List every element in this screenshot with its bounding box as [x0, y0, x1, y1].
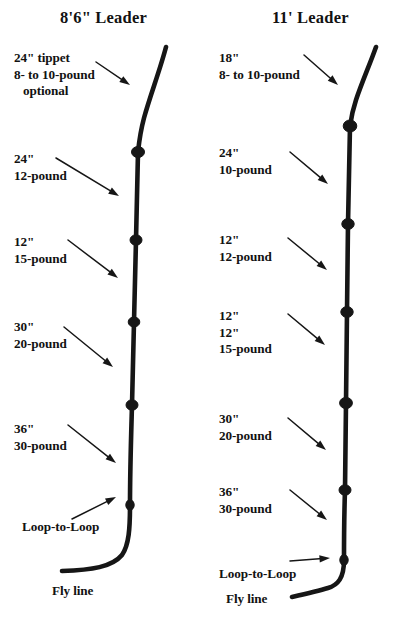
label-line: 24" [14, 151, 67, 168]
label-line: 12" [219, 308, 272, 325]
segment-12-15-label: 12"12"15-pound [219, 308, 272, 358]
label-line: 20-pound [14, 336, 67, 353]
pointer-arrow-shaft [288, 314, 319, 340]
blood-knot-icon [342, 219, 354, 230]
label-line: 12-pound [14, 168, 67, 185]
pointer-arrow-shaft [64, 327, 107, 362]
label-line: 18" [219, 50, 300, 67]
blood-knot-icon [128, 317, 140, 327]
label-line: 30" [14, 319, 67, 336]
label-line: 10-pound [219, 162, 272, 179]
leader-line [62, 47, 166, 571]
label-line: 15-pound [219, 341, 272, 358]
pointer-arrow-shaft [72, 500, 109, 519]
leader-line [292, 47, 376, 597]
blood-knot-icon [341, 307, 353, 318]
segment-24-12-label: 24"12-pound [14, 151, 67, 184]
label-line: optional [14, 83, 95, 100]
blood-knot-icon [130, 235, 142, 245]
label-line: 30-pound [14, 438, 67, 455]
segment-12-15-label: 12"15-pound [14, 234, 67, 267]
blood-knot-icon [132, 147, 145, 158]
pointer-arrow-head-icon [119, 76, 130, 85]
segment-36-30-label: 36"30-pound [219, 484, 272, 517]
loop-to-loop-knot-icon [340, 555, 348, 566]
fly-line-label: Fly line [52, 583, 93, 600]
label-line: 24" [219, 145, 272, 162]
segment-30-20-label: 30"20-pound [14, 319, 67, 352]
pointer-arrow-head-icon [108, 187, 119, 196]
loop-to-loop-knot-icon [126, 500, 134, 510]
label-line: 30-pound [219, 501, 272, 518]
pointer-arrow-shaft [288, 238, 321, 265]
pointer-arrow-shaft [96, 62, 124, 81]
label-line: 8- to 10-pound [14, 67, 95, 84]
page-title-left: 8'6" Leader [60, 8, 147, 28]
segment-30-20-label: 30"20-pound [219, 411, 272, 444]
segment-12-12-label: 12"12-pound [219, 232, 272, 265]
label-line: 12" [14, 234, 67, 251]
label-line: Loop-to-Loop [22, 519, 99, 536]
pointer-arrow-shaft [304, 55, 332, 80]
blood-knot-icon [340, 397, 353, 408]
label-line: 8- to 10-pound [219, 67, 300, 84]
label-line: 24" tippet [14, 50, 95, 67]
pointer-arrow-shaft [68, 240, 112, 273]
label-line: 12-pound [219, 249, 272, 266]
loop-to-loop-label: Loop-to-Loop [219, 566, 296, 583]
label-line: 15-pound [14, 251, 67, 268]
tippet-label: 18"8- to 10-pound [219, 50, 300, 83]
blood-knot-icon [343, 120, 357, 132]
blood-knot-icon [126, 400, 138, 410]
tippet-label: 24" tippet8- to 10-poundoptional [14, 50, 95, 100]
pointer-arrow-shaft [290, 152, 322, 179]
label-line: 36" [219, 484, 272, 501]
label-line: 12" [219, 325, 272, 342]
segment-24-10-label: 24"10-pound [219, 145, 272, 178]
label-line: Loop-to-Loop [219, 566, 296, 583]
pointer-arrow-head-icon [105, 497, 116, 505]
label-line: 36" [14, 421, 67, 438]
label-line: 12" [219, 232, 272, 249]
pointer-arrow-shaft [288, 418, 320, 445]
pointer-arrow-shaft [68, 425, 110, 458]
pointer-arrow-shaft [290, 490, 321, 515]
blood-knot-icon [339, 485, 351, 495]
leader-diagram-page: 8'6" Leader 11' Leader 24" tippet8- to 1… [0, 0, 407, 626]
pointer-arrow-shaft [290, 559, 323, 561]
label-line: Fly line [226, 591, 267, 608]
page-title-right: 11' Leader [272, 8, 349, 28]
pointer-arrow-head-icon [107, 269, 118, 278]
loop-to-loop-label: Loop-to-Loop [22, 519, 99, 536]
label-line: 20-pound [219, 428, 272, 445]
pointer-arrow-head-icon [319, 555, 330, 562]
label-line: 30" [219, 411, 272, 428]
fly-line-label: Fly line [226, 591, 267, 608]
label-line: Fly line [52, 583, 93, 600]
segment-36-30-label: 36"30-pound [14, 421, 67, 454]
